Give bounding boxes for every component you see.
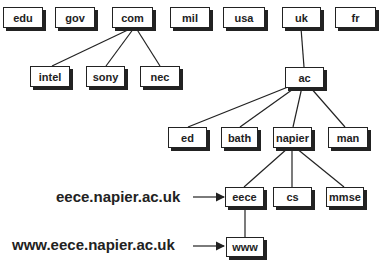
- node-intel: intel: [30, 66, 70, 87]
- node-label: nec: [151, 71, 170, 83]
- node-label: sony: [93, 71, 119, 83]
- node-label: gov: [65, 12, 85, 24]
- node-eece: eece: [225, 187, 264, 207]
- node-sony: sony: [86, 66, 125, 87]
- node-label: usa: [235, 12, 254, 24]
- node-gov: gov: [55, 7, 95, 28]
- node-label: intel: [39, 71, 62, 83]
- node-label: man: [337, 132, 360, 144]
- node-label: napier: [276, 132, 309, 144]
- node-ed: ed: [168, 127, 207, 148]
- node-usa: usa: [223, 7, 265, 28]
- node-label: cs: [286, 191, 298, 203]
- node-edu: edu: [3, 7, 43, 28]
- node-label: www: [232, 241, 258, 253]
- node-mmse: mmse: [326, 187, 364, 207]
- node-label: fr: [352, 12, 360, 24]
- node-www: www: [226, 237, 264, 257]
- node-label: ac: [298, 72, 310, 84]
- node-label: bath: [228, 132, 251, 144]
- node-cs: cs: [273, 187, 312, 207]
- node-man: man: [328, 127, 368, 148]
- node-label: edu: [13, 12, 33, 24]
- node-label: mil: [182, 12, 198, 24]
- node-bath: bath: [221, 127, 258, 148]
- node-com: com: [112, 7, 153, 28]
- node-ac: ac: [285, 67, 324, 88]
- node-mil: mil: [170, 7, 210, 28]
- fqdn-label-www: www.eece.napier.ac.uk: [12, 236, 175, 253]
- node-label: mmse: [329, 191, 361, 203]
- node-label: eece: [232, 191, 256, 203]
- fqdn-label-eece: eece.napier.ac.uk: [56, 188, 180, 205]
- node-label: com: [121, 12, 144, 24]
- node-label: uk: [295, 12, 308, 24]
- node-nec: nec: [140, 66, 180, 87]
- node-label: ed: [181, 132, 194, 144]
- node-uk: uk: [282, 7, 321, 28]
- node-napier: napier: [273, 127, 312, 148]
- node-fr: fr: [335, 7, 376, 28]
